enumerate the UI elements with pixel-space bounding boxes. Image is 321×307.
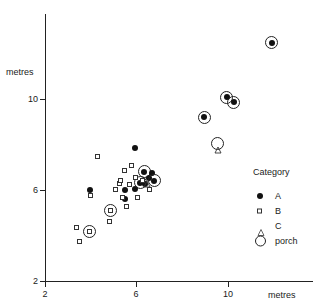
y-tick-label-2: 2: [16, 277, 38, 286]
data-point-a: [151, 178, 157, 184]
data-point-b: [129, 163, 134, 168]
x-tick-6: [136, 281, 137, 287]
legend-item-porch[interactable]: porch: [253, 233, 321, 248]
data-point-b: [88, 193, 93, 198]
x-axis-title: metres: [268, 291, 296, 300]
legend-item-c[interactable]: C: [253, 218, 321, 233]
data-point-b: [135, 195, 140, 200]
legend-title: Category: [253, 168, 321, 177]
data-point-a: [132, 145, 138, 151]
data-point-c: [214, 140, 222, 148]
data-point-b: [127, 182, 132, 187]
data-point-b: [108, 208, 113, 213]
data-point-a: [231, 99, 237, 105]
data-point-b: [147, 187, 152, 192]
data-point-b: [74, 225, 79, 230]
legend-item-label: A: [275, 191, 281, 200]
x-tick-2: [45, 281, 46, 287]
legend: Category ABCporch: [253, 168, 321, 248]
data-point-b: [124, 204, 129, 209]
y-axis-line: [45, 14, 46, 282]
data-point-a: [269, 40, 275, 46]
data-point-b: [95, 154, 100, 159]
filled-circle-icon: [257, 193, 263, 199]
x-axis-line: [45, 281, 313, 282]
data-point-b: [120, 195, 125, 200]
large-open-circle-icon: [255, 235, 266, 246]
legend-item-b[interactable]: B: [253, 203, 321, 218]
x-tick-label-2: 2: [34, 290, 56, 299]
y-tick-label-10: 10: [16, 95, 38, 104]
open-square-icon: [257, 208, 262, 213]
x-tick-label-6: 6: [125, 290, 147, 299]
legend-item-label: porch: [275, 236, 298, 245]
x-tick-10: [228, 281, 229, 287]
data-point-c: [143, 174, 151, 182]
data-point-b: [133, 175, 138, 180]
open-triangle-icon: [257, 222, 265, 229]
data-point-a: [87, 187, 93, 193]
data-point-b: [118, 178, 123, 183]
data-point-b: [77, 239, 82, 244]
y-tick-label-6: 6: [16, 186, 38, 195]
legend-item-label: C: [275, 221, 282, 230]
data-point-b: [122, 168, 127, 173]
legend-entries: ABCporch: [253, 188, 321, 248]
scatter-plot-figure: 10 6 2 2 6 10 metres metres Category ABC…: [0, 0, 321, 307]
data-point-b: [107, 219, 112, 224]
data-point-b: [87, 229, 92, 234]
x-tick-label-10: 10: [217, 290, 239, 299]
legend-item-label: B: [275, 206, 281, 215]
data-point-a: [122, 187, 128, 193]
y-axis-title: metres: [6, 68, 34, 77]
y-tick-10: [40, 99, 46, 100]
y-tick-6: [40, 190, 46, 191]
data-point-b: [113, 187, 118, 192]
legend-item-a[interactable]: A: [253, 188, 321, 203]
